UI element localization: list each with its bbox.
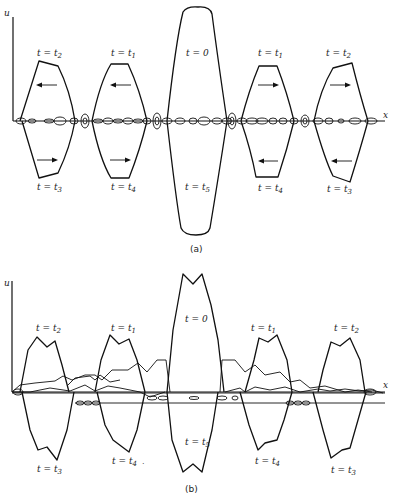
pulse-b-t5	[167, 392, 218, 472]
arrow-left-icon	[110, 83, 131, 88]
label-a-top-1: t = t1	[111, 48, 136, 60]
pulse-a-t4-left	[92, 121, 147, 178]
pulse-b-t2-right	[318, 338, 365, 392]
arrow-right-icon	[330, 83, 351, 88]
pulse-a-t3-right	[314, 121, 368, 182]
pulse-b-t1-right	[245, 335, 292, 392]
label-a-bot-2: t = t5	[185, 182, 211, 194]
pulse-a-t4-right	[241, 121, 294, 177]
wave-propagation-figure: u x	[0, 0, 395, 502]
pulse-a-t0	[167, 7, 227, 121]
label-a-top-4: t = t2	[326, 48, 352, 60]
label-b-top-1: t = t1	[111, 323, 136, 335]
panel-b: u x	[4, 274, 388, 494]
tail-b-5	[68, 375, 120, 385]
pulse-b-t0	[167, 274, 224, 392]
label-b-bot-2: t = t5	[185, 437, 211, 449]
label-b-bot-3: t = t4	[255, 456, 280, 468]
pulse-b-t4-left	[97, 392, 145, 452]
pulse-a-t2-left	[20, 61, 75, 121]
label-a-top-0: t = t2	[37, 48, 63, 60]
pulse-a-t1-left	[92, 64, 147, 121]
label-a-top-3: t = t1	[258, 48, 283, 60]
label-a-top-2: t = 0	[186, 48, 209, 58]
pulse-b-t3-right	[313, 392, 366, 458]
arrow-left-icon	[36, 83, 57, 88]
label-b-top-3: t = t1	[251, 323, 276, 335]
label-b-dot: .	[142, 457, 145, 466]
pulse-a-t2-right	[314, 63, 368, 121]
pulse-a-t5	[167, 121, 227, 235]
caption-a: (a)	[190, 244, 203, 254]
tail-b-3	[220, 360, 372, 392]
label-a-bot-0: t = t3	[37, 182, 63, 194]
u-axis-label-a: u	[4, 8, 10, 18]
tail-b-1	[12, 360, 170, 392]
arrow-left-icon	[331, 159, 352, 164]
label-b-bot-1: t = t4	[112, 456, 137, 468]
label-b-bot-0: t = t3	[37, 464, 63, 476]
pulse-a-t3-left	[22, 121, 75, 178]
arrow-right-icon	[110, 158, 131, 163]
label-a-bot-3: t = t4	[258, 183, 283, 195]
pulse-b-t4-right	[240, 392, 292, 450]
label-b-top-2: t = 0	[185, 314, 208, 324]
arrow-right-icon	[258, 83, 279, 88]
label-b-top-0: t = t2	[36, 323, 62, 335]
label-a-bot-4: t = t3	[327, 184, 353, 196]
arrow-right-icon	[37, 158, 58, 163]
pulse-a-t1-right	[241, 66, 294, 121]
caption-b: (b)	[185, 484, 198, 494]
pulse-b-t3-left	[22, 392, 74, 460]
arrow-left-icon	[258, 159, 278, 164]
label-a-bot-1: t = t4	[111, 182, 136, 194]
tail-b-2	[12, 385, 165, 397]
u-axis-label-b: u	[4, 278, 10, 288]
label-b-bot-4: t = t3	[331, 465, 357, 477]
panel-a: u x	[4, 7, 388, 254]
x-axis-label-b: x	[383, 380, 388, 390]
x-axis-label-a: x	[383, 110, 388, 120]
label-b-top-4: t = t2	[334, 323, 360, 335]
